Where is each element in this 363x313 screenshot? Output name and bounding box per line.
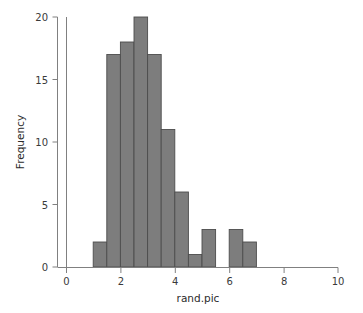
bar-bin-12 [243, 242, 257, 267]
y-tick-label-10: 10 [35, 137, 48, 148]
y-axis-ticks [53, 17, 58, 267]
x-axis-ticks [67, 268, 339, 274]
bar-bin-8 [188, 255, 202, 268]
x-tick-label-0: 0 [63, 276, 69, 287]
y-tick-label-20: 20 [35, 12, 48, 23]
bar-bin-1 [93, 242, 107, 267]
bar-bin-3 [120, 42, 134, 267]
x-tick-label-10: 10 [332, 276, 345, 287]
y-axis-tick-labels: 0 5 10 15 20 [35, 12, 48, 273]
bar-bin-2 [107, 55, 121, 268]
bar-bin-5 [148, 55, 162, 268]
x-axis-tick-labels: 0 2 4 6 8 10 [63, 276, 344, 287]
chart-canvas: 0 5 10 15 20 Frequency [0, 0, 363, 313]
y-tick-label-15: 15 [35, 75, 48, 86]
bar-bin-11 [229, 230, 243, 268]
x-axis-label: rand.pic [177, 292, 220, 304]
y-tick-label-5: 5 [42, 200, 48, 211]
bar-bin-6 [161, 130, 175, 268]
x-tick-label-8: 8 [281, 276, 287, 287]
bars-group [93, 17, 256, 267]
x-tick-label-6: 6 [227, 276, 233, 287]
bar-bin-9 [202, 230, 216, 268]
x-tick-label-4: 4 [172, 276, 178, 287]
x-tick-label-2: 2 [118, 276, 124, 287]
y-tick-label-0: 0 [42, 262, 48, 273]
histogram-chart: 0 5 10 15 20 Frequency [0, 0, 363, 313]
bar-bin-7 [175, 192, 189, 267]
bar-bin-4 [134, 17, 148, 267]
y-axis-label: Frequency [14, 115, 26, 169]
